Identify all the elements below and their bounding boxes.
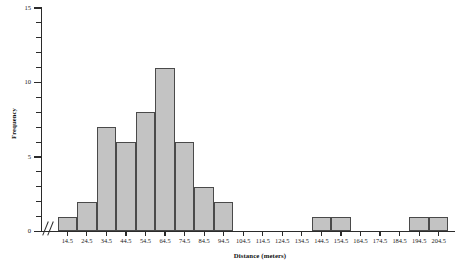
x-tick [223,232,224,236]
y-axis-title: Frequency [10,89,17,159]
x-axis-title: Distance (meters) [180,252,340,259]
x-tick [106,232,107,236]
histogram-bar [214,202,234,232]
y-tick-minor [36,186,42,187]
histogram-bar [429,217,449,232]
y-tick-label: 10 [0,79,31,86]
x-tick [164,232,165,236]
y-tick-major [34,156,42,157]
x-tick [301,232,302,236]
x-tick [204,232,205,236]
x-tick [145,232,146,236]
y-tick-major [34,82,42,83]
y-tick-minor [36,201,42,202]
histogram-plot: Frequency Distance (meters) 051015 14.52… [0,0,472,270]
x-tick-label: 204.5 [421,238,457,244]
y-tick-label: 15 [0,5,31,12]
x-tick [419,232,420,236]
axis-break-icon [43,221,57,237]
y-tick-label: 0 [0,228,31,235]
x-tick [67,232,68,236]
x-tick [399,232,400,236]
histogram-bar [97,127,117,231]
x-tick [243,232,244,236]
histogram-bar [116,142,136,231]
y-tick-minor [36,171,42,172]
y-tick-minor [36,97,42,98]
y-axis-line [41,8,42,232]
y-tick-minor [36,67,42,68]
histogram-bar [331,217,351,232]
x-tick [438,232,439,236]
histogram-bar [58,217,78,232]
y-tick-minor [36,216,42,217]
x-tick [282,232,283,236]
histogram-screenshot: Frequency Distance (meters) 051015 14.52… [0,0,472,270]
y-tick-minor [36,127,42,128]
y-tick-minor [36,37,42,38]
y-tick-major [34,231,42,232]
x-tick [340,232,341,236]
histogram-bar [136,112,156,231]
y-tick-minor [36,142,42,143]
histogram-bar [194,187,214,232]
histogram-bar [409,217,429,232]
x-tick [262,232,263,236]
x-tick [321,232,322,236]
histogram-bar [312,217,332,232]
y-tick-minor [36,22,42,23]
y-tick-major [34,7,42,8]
x-tick [125,232,126,236]
histogram-bar [77,202,97,232]
y-tick-minor [36,52,42,53]
y-tick-label: 5 [0,154,31,161]
x-tick [184,232,185,236]
x-tick [86,232,87,236]
x-tick [379,232,380,236]
y-tick-minor [36,112,42,113]
x-tick [360,232,361,236]
histogram-bar [155,68,175,232]
histogram-bar [175,142,195,231]
